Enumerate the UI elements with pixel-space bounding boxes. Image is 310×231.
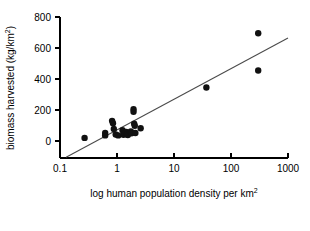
x-axis-ticks [60, 153, 288, 158]
data-point [255, 67, 261, 73]
data-point [132, 130, 138, 136]
regression-line [66, 38, 288, 157]
x-tick-label-100: 100 [223, 163, 240, 174]
y-tick-label-0: 0 [45, 136, 51, 147]
y-axis-ticks [55, 17, 60, 141]
y-axis-title-text: biomass harvested (kg/km [5, 33, 16, 150]
x-axis-title-superscript: 2 [254, 187, 258, 194]
y-axis-title-tail: ) [5, 26, 16, 29]
x-axis-tick-labels: 0.1 1 10 100 1000 [53, 163, 300, 174]
x-axis-title-text: log human population density per km [90, 188, 253, 199]
data-point [81, 135, 87, 141]
x-tick-label-1: 1 [114, 163, 120, 174]
data-point [110, 120, 116, 126]
x-axis-title: log human population density per km2 [90, 187, 257, 199]
data-point [102, 132, 108, 138]
data-point [137, 125, 143, 131]
y-tick-label-400: 400 [34, 74, 51, 85]
data-point [111, 126, 117, 132]
data-point [203, 84, 209, 90]
chart-figure: 800 600 400 200 0 0.1 1 10 100 1000 log … [0, 0, 310, 231]
scatter-plot: 800 600 400 200 0 0.1 1 10 100 1000 log … [0, 0, 310, 231]
y-axis-tick-labels: 800 600 400 200 0 [34, 12, 51, 147]
data-point [132, 123, 138, 129]
x-tick-label-10: 10 [168, 163, 180, 174]
y-tick-label-600: 600 [34, 43, 51, 54]
y-tick-label-800: 800 [34, 12, 51, 23]
x-tick-label-1000: 1000 [277, 163, 300, 174]
data-point [130, 109, 136, 115]
y-tick-label-200: 200 [34, 105, 51, 116]
axes [60, 17, 288, 158]
x-tick-label-0.1: 0.1 [53, 163, 67, 174]
y-axis-title: biomass harvested (kg/km2) [4, 26, 16, 150]
data-point [255, 30, 261, 36]
data-points-layer [81, 30, 261, 141]
